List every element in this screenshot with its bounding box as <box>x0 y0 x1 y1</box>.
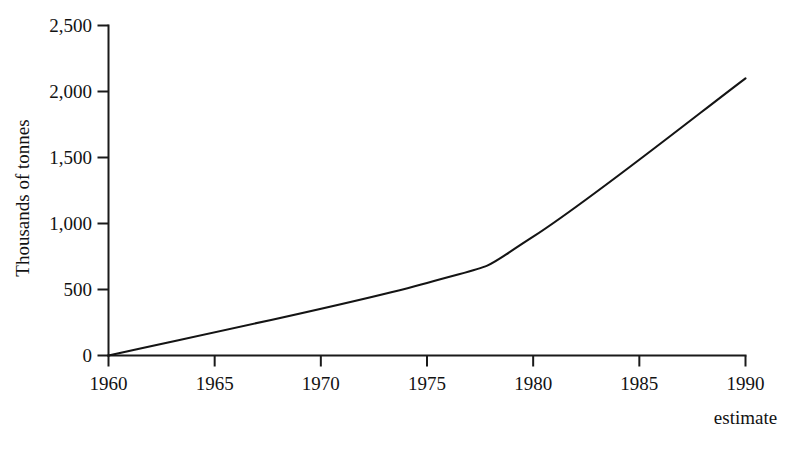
x-tick-label: 1980 <box>498 374 568 393</box>
x-tick-label: 1975 <box>392 374 462 393</box>
x-tick-label: 1970 <box>286 374 356 393</box>
x-tick-label: 1990 <box>711 374 781 393</box>
x-tick-label: 1960 <box>74 374 144 393</box>
line-chart-figure: Thousands of tonnes 05001,0001,5002,0002… <box>0 0 791 455</box>
estimate-annotation: estimate <box>686 407 791 429</box>
x-tick-label: 1985 <box>604 374 674 393</box>
x-tick-label: 1965 <box>180 374 250 393</box>
x-axis-tick-labels: 1960196519701975198019851990 <box>0 0 791 455</box>
